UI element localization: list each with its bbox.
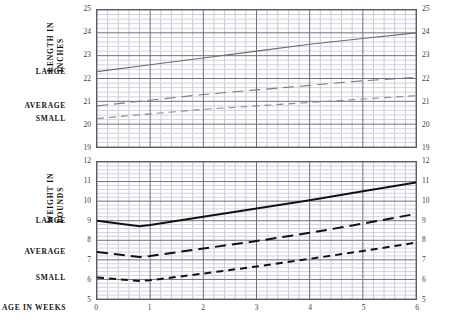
length-y-tick-left-21: 21 bbox=[70, 97, 91, 106]
weight-y-tick-right-7: 7 bbox=[422, 255, 443, 264]
weight-y-tick-right-9: 9 bbox=[422, 216, 443, 225]
weight-y-tick-right-10: 10 bbox=[422, 196, 443, 205]
x-axis-caption: AGE IN WEEKS bbox=[2, 303, 66, 312]
weight-plot-area bbox=[96, 161, 417, 300]
length-plot-area bbox=[96, 9, 417, 148]
x-tick-1: 1 bbox=[140, 303, 160, 312]
weight-y-tick-left-8: 8 bbox=[70, 235, 91, 244]
x-tick-5: 5 bbox=[354, 303, 374, 312]
growth-chart-figure: LENGTH ININCHES LARGE AVERAGE SMALL WEIG… bbox=[0, 0, 469, 323]
weight-label-average: AVERAGE bbox=[0, 247, 66, 256]
length-y-tick-right-24: 24 bbox=[422, 27, 443, 36]
weight-y-tick-left-11: 11 bbox=[70, 176, 91, 185]
length-label-large: LARGE bbox=[0, 67, 66, 76]
weight-label-small: SMALL bbox=[0, 273, 66, 282]
weight-y-tick-left-6: 6 bbox=[70, 275, 91, 284]
length-y-tick-left-20: 20 bbox=[70, 120, 91, 129]
weight-y-tick-left-7: 7 bbox=[70, 255, 91, 264]
length-y-tick-right-20: 20 bbox=[422, 120, 443, 129]
length-y-tick-right-22: 22 bbox=[422, 74, 443, 83]
length-y-tick-left-24: 24 bbox=[70, 27, 91, 36]
length-chart-panel bbox=[96, 9, 417, 148]
x-tick-3: 3 bbox=[247, 303, 267, 312]
length-y-tick-left-23: 23 bbox=[70, 50, 91, 59]
weight-y-tick-left-10: 10 bbox=[70, 196, 91, 205]
weight-y-tick-left-12: 12 bbox=[70, 156, 91, 165]
x-tick-4: 4 bbox=[300, 303, 320, 312]
weight-curves bbox=[97, 162, 416, 299]
length-y-tick-right-21: 21 bbox=[422, 97, 443, 106]
weight-y-tick-right-11: 11 bbox=[422, 176, 443, 185]
length-y-tick-left-25: 25 bbox=[70, 4, 91, 13]
x-tick-0: 0 bbox=[86, 303, 106, 312]
x-tick-2: 2 bbox=[193, 303, 213, 312]
weight-label-large: LARGE bbox=[0, 216, 66, 225]
weight-chart-panel bbox=[96, 161, 417, 300]
length-y-tick-left-22: 22 bbox=[70, 74, 91, 83]
weight-y-tick-left-9: 9 bbox=[70, 216, 91, 225]
length-curves bbox=[97, 10, 416, 147]
weight-y-tick-right-6: 6 bbox=[422, 275, 443, 284]
length-label-small: SMALL bbox=[0, 114, 66, 123]
length-axis-title: LENGTH ININCHES bbox=[46, 22, 65, 72]
length-label-average: AVERAGE bbox=[0, 101, 66, 110]
length-y-tick-right-19: 19 bbox=[422, 143, 443, 152]
length-y-tick-right-23: 23 bbox=[422, 50, 443, 59]
length-y-tick-right-25: 25 bbox=[422, 4, 443, 13]
weight-y-tick-right-12: 12 bbox=[422, 156, 443, 165]
length-y-tick-left-19: 19 bbox=[70, 143, 91, 152]
weight-y-tick-right-8: 8 bbox=[422, 235, 443, 244]
x-tick-6: 6 bbox=[407, 303, 427, 312]
